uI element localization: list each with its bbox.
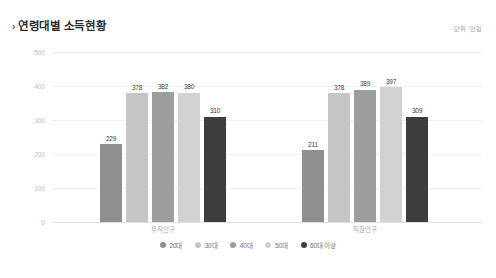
bar-value-label: 378 <box>334 84 344 91</box>
bar[interactable] <box>328 93 350 222</box>
legend-color-swatch-icon <box>160 242 166 248</box>
legend-item[interactable]: 60대 이상 <box>301 240 336 250</box>
bar-value-label: 310 <box>210 107 220 114</box>
chart-card: ›연령대별 소득현황 단위 : 만원 500400300200100022937… <box>0 0 496 278</box>
bar-value-label: 389 <box>360 80 370 87</box>
legend-label: 50대 <box>275 240 288 250</box>
y-axis-tick-label: 200 <box>34 151 45 158</box>
bar[interactable] <box>152 92 174 222</box>
legend-item[interactable]: 50대 <box>265 240 287 250</box>
y-axis-tick-label: 500 <box>34 49 45 56</box>
bar-value-label: 229 <box>106 135 116 142</box>
legend-item[interactable]: 30대 <box>195 240 217 250</box>
bar-value-label: 309 <box>412 107 422 114</box>
bar-column[interactable]: 310 <box>204 52 226 222</box>
page-title: ›연령대별 소득현황 <box>12 17 107 33</box>
bar[interactable] <box>100 144 122 222</box>
bar-value-label: 378 <box>132 84 142 91</box>
bar-column[interactable]: 389 <box>354 52 376 222</box>
legend-label: 20대 <box>170 240 183 250</box>
chart-legend: 20대30대40대50대60대 이상 <box>0 240 496 250</box>
y-axis-tick-label: 0 <box>41 219 45 226</box>
bar-column[interactable]: 382 <box>152 52 174 222</box>
bar[interactable] <box>204 117 226 222</box>
legend-label: 60대 이상 <box>310 240 336 250</box>
bar-column[interactable]: 378 <box>328 52 350 222</box>
x-axis-group-label: 무직인구 <box>88 224 238 234</box>
bar-value-label: 380 <box>184 83 194 90</box>
bar-column[interactable]: 380 <box>178 52 200 222</box>
unit-note: 단위 : 만원 <box>454 24 482 33</box>
bar[interactable] <box>354 90 376 222</box>
y-axis-tick-label: 400 <box>34 83 45 90</box>
bar-value-label: 382 <box>158 83 168 90</box>
legend-item[interactable]: 40대 <box>230 240 252 250</box>
bar[interactable] <box>380 87 402 222</box>
bar-value-label: 211 <box>308 141 318 148</box>
bar-column[interactable]: 211 <box>302 52 324 222</box>
legend-label: 30대 <box>205 240 218 250</box>
y-axis-tick-label: 100 <box>34 185 45 192</box>
bar[interactable] <box>302 150 324 222</box>
legend-color-swatch-icon <box>301 242 307 248</box>
bar-value-label: 397 <box>386 78 396 85</box>
legend-item[interactable]: 20대 <box>160 240 182 250</box>
legend-color-swatch-icon <box>195 242 201 248</box>
bar-column[interactable]: 397 <box>380 52 402 222</box>
bar-group: 211378389397309직장인구 <box>290 52 440 222</box>
bar-column[interactable]: 309 <box>406 52 428 222</box>
legend-color-swatch-icon <box>230 242 236 248</box>
bar-group: 229378382380310무직인구 <box>88 52 238 222</box>
legend-color-swatch-icon <box>265 242 271 248</box>
chart-plot-area: 5004003002001000229378382380310무직인구21137… <box>52 52 482 222</box>
page-title-text: 연령대별 소득현황 <box>18 20 107 32</box>
gridline <box>52 222 482 223</box>
y-axis-tick-label: 300 <box>34 117 45 124</box>
legend-label: 40대 <box>240 240 253 250</box>
chevron-right-icon: › <box>12 21 15 32</box>
bar[interactable] <box>178 93 200 222</box>
x-axis-group-label: 직장인구 <box>290 224 440 234</box>
bar[interactable] <box>126 93 148 222</box>
bar-column[interactable]: 378 <box>126 52 148 222</box>
bar-column[interactable]: 229 <box>100 52 122 222</box>
bar[interactable] <box>406 117 428 222</box>
